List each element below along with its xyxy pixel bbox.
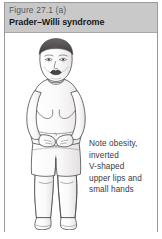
illustration-line-art — [27, 39, 85, 230]
figure-body: Note obesity, inverted V-shaped upper li… — [5, 34, 157, 232]
head — [39, 39, 73, 82]
prader-willi-patient-illustration — [7, 34, 99, 230]
caption-line: upper lips and — [89, 173, 159, 185]
caption-line: small hands — [89, 184, 159, 196]
caption-line: inverted — [89, 150, 159, 162]
figure-card: Figure 27.1 (a) Prader–Willi syndrome — [4, 2, 158, 232]
figure-title: Prader–Willi syndrome — [9, 17, 104, 27]
caption-line: V-shaped — [89, 161, 159, 173]
figure-caption: Note obesity, inverted V-shaped upper li… — [89, 138, 159, 196]
figure-header: Figure 27.1 (a) Prader–Willi syndrome — [5, 3, 157, 33]
figure-number-label: Figure 27.1 (a) — [9, 5, 66, 15]
caption-line: Note obesity, — [89, 138, 159, 150]
